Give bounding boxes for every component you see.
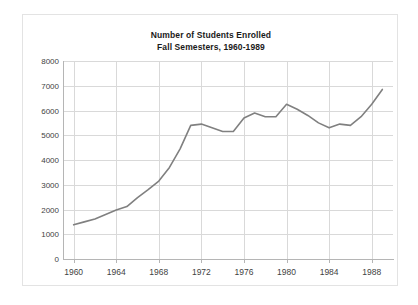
y-axis-tick-label: 8000 [41, 57, 59, 66]
series-line-chart [63, 61, 393, 259]
x-axis-tick-mark [329, 259, 330, 263]
x-axis-tick-label: 1968 [149, 267, 168, 277]
x-axis-tick-mark [244, 259, 245, 263]
y-axis-tick-label: 1000 [41, 230, 59, 239]
x-axis-tick-label: 1960 [64, 267, 83, 277]
y-axis-line [63, 61, 64, 260]
x-axis-line [63, 259, 394, 260]
x-axis-tick-label: 1984 [320, 267, 339, 277]
y-axis-tick-label: 3000 [41, 180, 59, 189]
y-axis-tick-label: 6000 [41, 106, 59, 115]
chart-title: Number of Students Enrolled Fall Semeste… [23, 29, 399, 53]
y-axis-tick-labels: 800070006000500040003000200010000 [23, 61, 59, 259]
x-axis-tick-label: 1964 [107, 267, 126, 277]
x-axis-tick-label: 1980 [277, 267, 296, 277]
chart-container: Number of Students Enrolled Fall Semeste… [22, 14, 398, 286]
x-axis-tick-label: 1988 [362, 267, 381, 277]
x-axis-tick-label: 1972 [192, 267, 211, 277]
y-axis-tick-label: 2000 [41, 205, 59, 214]
y-axis-tick-label: 4000 [41, 156, 59, 165]
y-axis-tick-label: 0 [55, 255, 59, 264]
x-axis-tick-label: 1976 [234, 267, 253, 277]
x-axis-tick-mark [372, 259, 373, 263]
x-axis-tick-mark [116, 259, 117, 263]
chart-title-line-2: Fall Semesters, 1960-1989 [23, 41, 399, 53]
y-axis-tick-label: 5000 [41, 131, 59, 140]
x-axis-tick-mark [159, 259, 160, 263]
series-line-students-enrolled [74, 89, 383, 224]
chart-title-line-1: Number of Students Enrolled [23, 29, 399, 41]
x-axis-tick-labels: 19601964196819721976198019841988 [63, 267, 393, 281]
x-axis-tick-mark [74, 259, 75, 263]
plot-area [63, 61, 393, 259]
x-axis-tick-mark [287, 259, 288, 263]
x-axis-tick-mark [201, 259, 202, 263]
y-axis-tick-label: 7000 [41, 81, 59, 90]
